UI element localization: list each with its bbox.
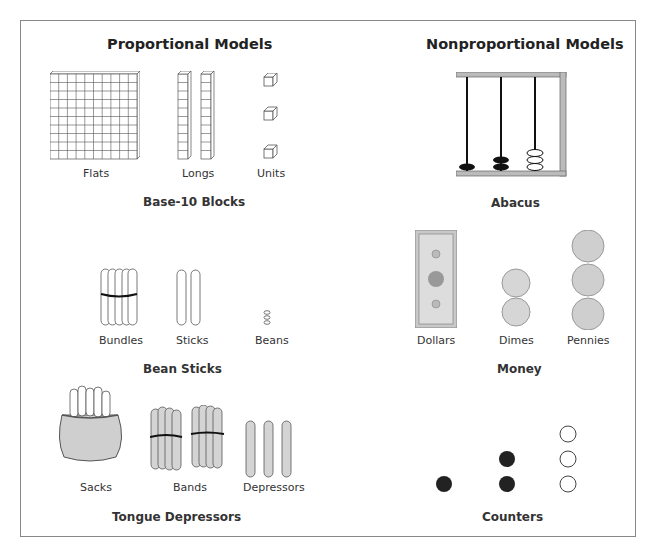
bundles-icon xyxy=(100,268,138,326)
sticks-icon xyxy=(176,269,202,327)
dimes-icon xyxy=(501,268,531,328)
abacus-icon xyxy=(456,72,568,180)
long-block-icon xyxy=(177,71,217,161)
sticks-label: Sticks xyxy=(176,334,209,347)
pennies-icon xyxy=(571,230,605,330)
beans-label: Beans xyxy=(255,334,289,347)
depressors-icon xyxy=(245,420,295,478)
bands-icon xyxy=(150,405,230,473)
dimes-label: Dimes xyxy=(499,334,534,347)
bundles-label: Bundles xyxy=(99,334,143,347)
nonproportional-models-title: Nonproportional Models xyxy=(426,36,624,52)
longs-label: Longs xyxy=(182,167,214,180)
pennies-label: Pennies xyxy=(567,334,610,347)
unit-cubes-icon xyxy=(263,73,279,163)
dollar-bill-icon xyxy=(415,230,457,328)
depressors-label: Depressors xyxy=(243,481,305,494)
counters-caption: Counters xyxy=(482,510,543,524)
counters-icon xyxy=(434,425,584,495)
flat-block-icon xyxy=(50,71,140,161)
abacus-caption: Abacus xyxy=(491,196,540,210)
tongue-depressors-caption: Tongue Depressors xyxy=(112,510,241,524)
flats-label: Flats xyxy=(83,167,109,180)
sacks-label: Sacks xyxy=(80,481,112,494)
bean-sticks-caption: Bean Sticks xyxy=(143,362,222,376)
proportional-models-title: Proportional Models xyxy=(107,36,272,52)
money-caption: Money xyxy=(497,362,542,376)
base-10-blocks-caption: Base-10 Blocks xyxy=(143,195,245,209)
bands-label: Bands xyxy=(173,481,207,494)
sack-icon xyxy=(56,385,124,463)
units-label: Units xyxy=(257,167,285,180)
beans-icon xyxy=(263,310,271,326)
dollars-label: Dollars xyxy=(417,334,455,347)
